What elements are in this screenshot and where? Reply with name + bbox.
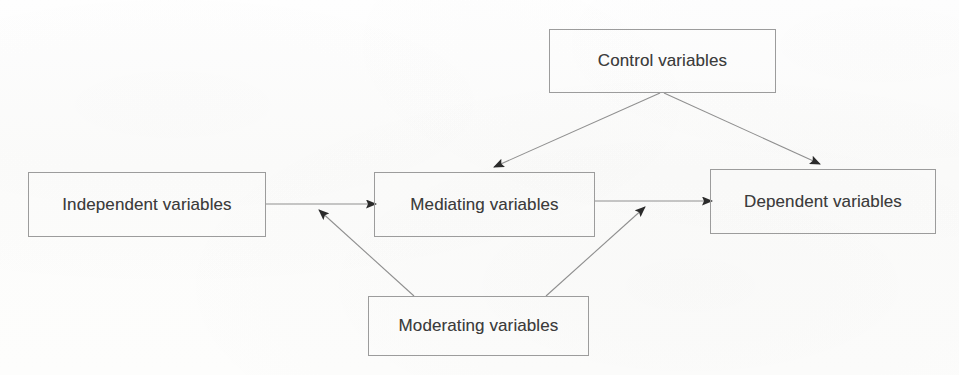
- node-mediating-variables-label: Mediating variables: [410, 195, 558, 215]
- node-moderating-variables[interactable]: Moderating variables: [368, 296, 589, 356]
- node-mediating-variables[interactable]: Mediating variables: [374, 172, 595, 237]
- node-dependent-variables-label: Dependent variables: [744, 192, 902, 212]
- node-control-variables-label: Control variables: [598, 51, 727, 71]
- edge-control-to-mediating: [494, 93, 660, 167]
- variables-relationship-diagram: Control variables Independent variables …: [0, 0, 959, 375]
- node-control-variables[interactable]: Control variables: [549, 29, 776, 93]
- node-moderating-variables-label: Moderating variables: [399, 316, 559, 336]
- node-independent-variables-label: Independent variables: [62, 195, 231, 215]
- node-independent-variables[interactable]: Independent variables: [28, 172, 266, 237]
- node-dependent-variables[interactable]: Dependent variables: [710, 169, 936, 234]
- edge-control-to-dependent: [664, 93, 820, 164]
